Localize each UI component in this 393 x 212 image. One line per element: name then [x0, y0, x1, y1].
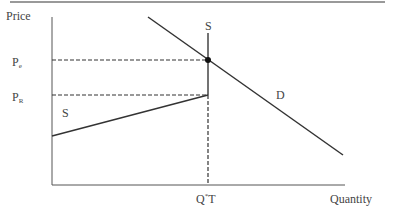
- pr-label: PR: [12, 91, 23, 105]
- y-axis-label: Price: [6, 10, 31, 22]
- x-axis-label: Quantity: [330, 193, 372, 205]
- qt-rest: T: [208, 192, 215, 206]
- qt-main: Q: [196, 192, 205, 206]
- demand-line: [148, 17, 343, 155]
- supply-vertical-label: S: [205, 20, 212, 32]
- equilibrium-point: [205, 57, 211, 63]
- quantity-tariff-label: Q*T: [196, 193, 216, 205]
- pr-sub: R: [19, 97, 24, 105]
- pe-label: Pe: [12, 56, 22, 70]
- diagram-canvas: [0, 0, 393, 212]
- pe-sub: e: [19, 62, 22, 70]
- demand-label: D: [276, 89, 285, 101]
- pe-main: P: [12, 55, 19, 69]
- pr-main: P: [12, 90, 19, 104]
- supply-lower-label: S: [62, 107, 69, 119]
- supply-lower-line: [52, 95, 208, 136]
